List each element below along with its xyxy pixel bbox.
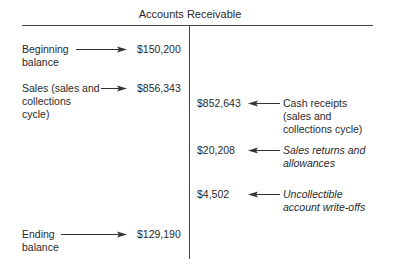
credit-label: Sales returns and allowances xyxy=(283,144,365,170)
t-account-horizontal-line xyxy=(22,25,373,26)
arrow-left-icon xyxy=(248,191,280,198)
arrow-left-icon xyxy=(248,147,280,154)
debit-amount: $129,190 xyxy=(137,228,181,241)
arrow-right-icon xyxy=(76,46,127,53)
credit-amount: $4,502 xyxy=(197,188,229,201)
credit-amount: $852,643 xyxy=(197,97,241,110)
credit-label: Uncollectible account write-offs xyxy=(283,188,365,214)
account-title: Accounts Receivable xyxy=(0,8,380,20)
arrow-right-icon xyxy=(101,85,127,92)
t-account-vertical-line xyxy=(189,26,190,259)
arrow-right-icon xyxy=(61,231,127,238)
credit-amount: $20,208 xyxy=(197,144,235,157)
debit-label: Sales (sales and collections cycle) xyxy=(22,82,100,121)
debit-amount: $150,200 xyxy=(137,43,181,56)
credit-label: Cash receipts (sales and collections cyc… xyxy=(283,97,362,136)
arrow-left-icon xyxy=(248,100,280,107)
debit-label: Beginning balance xyxy=(22,43,69,69)
debit-label: Ending balance xyxy=(22,228,59,254)
debit-amount: $856,343 xyxy=(137,82,181,95)
